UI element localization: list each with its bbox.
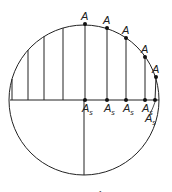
label-A: A bbox=[80, 10, 88, 22]
label-A: A bbox=[102, 14, 110, 26]
circle-projection-diagram: AAsAAsAAsAAsAAs Fig. 2.1 bbox=[0, 0, 172, 192]
label-As: As bbox=[144, 112, 156, 126]
point-A bbox=[83, 22, 87, 26]
label-As: As bbox=[81, 102, 93, 116]
point-A bbox=[143, 55, 147, 59]
point-labels: AAsAAsAAsAAsAAs bbox=[80, 10, 159, 126]
label-A: A bbox=[151, 63, 159, 75]
point-A bbox=[124, 36, 128, 40]
label-As: As bbox=[122, 102, 134, 116]
label-As: As bbox=[103, 102, 115, 116]
label-A: A bbox=[121, 24, 129, 36]
label-A: A bbox=[140, 43, 148, 55]
point-A bbox=[154, 75, 158, 79]
point-A bbox=[105, 26, 109, 30]
point-As bbox=[153, 98, 157, 102]
left-projection-lines bbox=[12, 28, 63, 100]
projection-line bbox=[155, 77, 156, 100]
figure-caption: Fig. 2.1 bbox=[72, 190, 103, 192]
